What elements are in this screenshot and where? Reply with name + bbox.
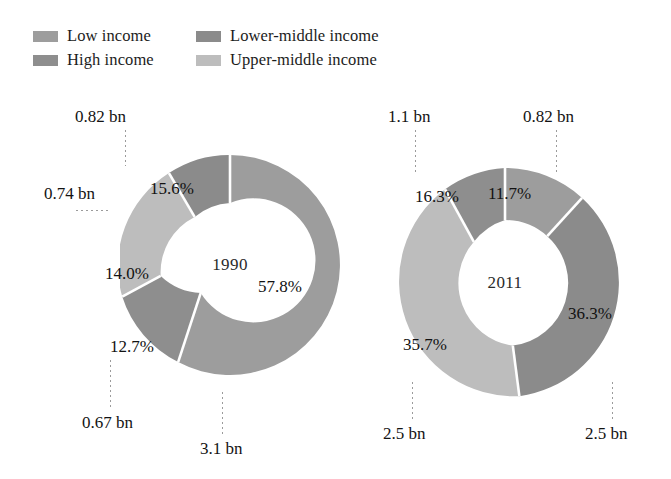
label-2011-pct-lower-middle-income: 36.3% bbox=[568, 305, 612, 322]
donut-2011-center-label: 2011 bbox=[390, 273, 620, 293]
legend-item-lower-middle-income: Lower-middle income bbox=[196, 28, 379, 45]
label-1990-pct-upper-middle-income: 14.0% bbox=[105, 265, 149, 282]
legend-swatch-lower-middle-income bbox=[196, 31, 221, 42]
label-2011-bn-high-income: 1.1 bn bbox=[388, 108, 431, 125]
leader-2011-lower-middle-income bbox=[612, 382, 613, 420]
label-1990-bn-high-income: 0.67 bn bbox=[82, 414, 133, 431]
label-1990-pct-low-income: 57.8% bbox=[258, 278, 302, 295]
leader-2011-high-income bbox=[415, 130, 416, 174]
legend-label-upper-middle-income: Upper-middle income bbox=[230, 52, 377, 69]
chart-legend: Low income High income Lower-middle inco… bbox=[30, 28, 430, 80]
donut-1990-center-label: 1990 bbox=[120, 255, 340, 275]
leader-2011-low-income bbox=[556, 130, 557, 172]
label-1990-pct-lower-middle-income: 15.6% bbox=[150, 180, 194, 197]
leader-1990-high-income bbox=[110, 360, 111, 408]
legend-label-lower-middle-income: Lower-middle income bbox=[230, 28, 379, 45]
label-2011-bn-lower-middle-income: 2.5 bn bbox=[585, 425, 628, 442]
label-1990-bn-upper-middle-income: 0.74 bn bbox=[44, 185, 95, 202]
label-1990-bn-low-income: 3.1 bn bbox=[200, 440, 243, 457]
leader-1990-lower-middle-income bbox=[125, 130, 126, 166]
legend-swatch-upper-middle-income bbox=[196, 55, 221, 66]
legend-swatch-low-income bbox=[33, 31, 58, 42]
label-2011-pct-high-income: 16.3% bbox=[415, 188, 459, 205]
legend-label-high-income: High income bbox=[67, 52, 154, 69]
legend-item-high-income: High income bbox=[33, 52, 154, 69]
label-2011-bn-low-income: 0.82 bn bbox=[523, 108, 574, 125]
legend-item-low-income: Low income bbox=[33, 28, 151, 45]
donut-chart-figure: Low income High income Lower-middle inco… bbox=[0, 0, 671, 479]
label-1990-pct-high-income: 12.7% bbox=[110, 338, 154, 355]
label-2011-pct-low-income: 11.7% bbox=[488, 185, 531, 202]
leader-2011-upper-middle-income bbox=[412, 382, 413, 420]
leader-1990-upper-middle-income bbox=[76, 210, 110, 211]
slice-2011-lower-middle-income bbox=[513, 198, 619, 396]
legend-label-low-income: Low income bbox=[67, 28, 151, 45]
label-2011-pct-upper-middle-income: 35.7% bbox=[403, 336, 447, 353]
leader-1990-low-income bbox=[222, 392, 223, 434]
legend-swatch-high-income bbox=[33, 55, 58, 66]
label-1990-bn-lower-middle-income: 0.82 bn bbox=[75, 108, 126, 125]
label-2011-bn-upper-middle-income: 2.5 bn bbox=[383, 425, 426, 442]
legend-item-upper-middle-income: Upper-middle income bbox=[196, 52, 377, 69]
